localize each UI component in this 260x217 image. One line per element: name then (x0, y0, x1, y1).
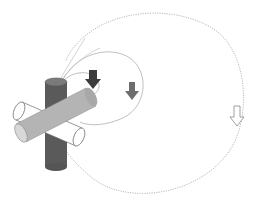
middle-force-arrow-icon (125, 82, 139, 100)
outer-force-arrow-icon (230, 106, 244, 126)
rotation-diagram (0, 0, 260, 217)
